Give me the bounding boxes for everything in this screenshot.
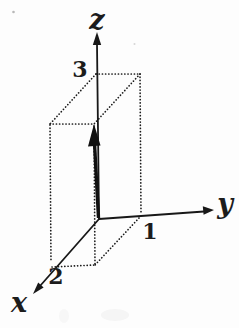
y-axis-arrowhead-icon [203,206,214,214]
z-axis-label: z [88,4,105,35]
x-axis-tick-2: 2 [48,263,63,289]
scan-speck [134,43,136,45]
scan-smudge [59,309,69,323]
vector-3d-diagram: z y x 3 1 2 [0,0,239,328]
box-edge-bottom-right-diagonal [95,218,139,265]
box-edge-top-right-diagonal [94,74,140,124]
scan-smudge [101,309,129,321]
z-axis-tick-3: 3 [72,56,87,82]
scan-speck [12,11,15,14]
box-edge-right-vertical [140,74,141,213]
box-edge-left-vertical [50,125,51,262]
y-axis-label: y [216,188,235,219]
x-axis-label: x [10,287,28,318]
figure-canvas: z y x 3 1 2 [0,0,239,328]
y-axis-tick-1: 1 [142,218,157,244]
